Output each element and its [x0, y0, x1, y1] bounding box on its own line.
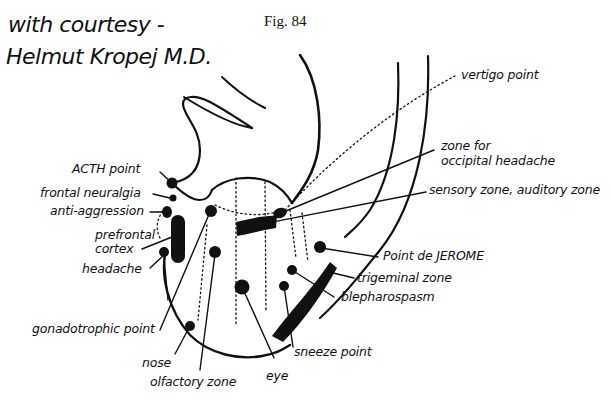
label-headache: headache	[82, 263, 142, 276]
jerome-dot	[314, 241, 326, 253]
antihelix-crus-stroke-2	[184, 97, 252, 128]
credit-line-1: with courtesy -	[8, 14, 164, 36]
helix-curve-inner	[345, 63, 398, 237]
lobe-outer-boundary	[164, 250, 290, 357]
blepharospasm-dot	[287, 265, 297, 275]
eye-dot	[235, 280, 250, 295]
label-nose: nose	[142, 357, 171, 370]
label-occipital-headache-1: zone for	[441, 140, 490, 153]
label-trigeminal-zone: trigeminal zone	[357, 272, 452, 285]
label-prefrontal-2: cortex	[95, 243, 133, 256]
prefrontal-cortex-zone	[171, 215, 185, 263]
leader-jerome	[321, 248, 378, 257]
anti-aggression-dot	[162, 206, 172, 218]
leader-eye	[243, 289, 274, 358]
label-sensory-auditory-zone: sensory zone, auditory zone	[429, 184, 600, 197]
label-occipital-headache-2: occipital headache	[441, 155, 555, 168]
label-sneeze-point: sneeze point	[294, 346, 372, 359]
label-gonadotrophic-point: gonadotrophic point	[32, 323, 155, 336]
leader-frontal-neuralgia	[153, 194, 170, 198]
lobe-top-arc	[212, 178, 292, 203]
label-prefrontal-1: prefrontal	[95, 229, 155, 242]
label-olfactory-zone: olfactory zone	[150, 376, 236, 389]
ear-acupuncture-diagram: with courtesy - Helmut Kropej M.D. Fig. …	[0, 0, 610, 399]
nose-dot	[185, 321, 195, 331]
frontal-neuralgia-dot	[170, 195, 177, 202]
label-anti-aggression: anti-aggression	[50, 205, 144, 218]
label-frontal-neuralgia: frontal neuralgia	[40, 187, 141, 200]
olfactory-dot	[209, 246, 221, 258]
label-blepharospasm: blepharospasm	[341, 291, 435, 304]
dotted-v-3	[198, 225, 207, 320]
credit-line-2: Helmut Kropej M.D.	[6, 46, 212, 68]
intertragic-notch	[172, 183, 212, 200]
label-eye: eye	[266, 370, 288, 383]
helix-outer-curve	[292, 55, 319, 203]
leader-headache	[150, 255, 164, 268]
dotted-v-2	[265, 182, 266, 312]
dotted-v-5	[302, 213, 308, 262]
sensory-auditory-zone-bar	[236, 216, 277, 236]
figure-number: Fig. 84	[264, 14, 307, 29]
tragus-outline	[172, 97, 252, 183]
label-point-de-jerome: Point de JEROME	[383, 250, 484, 263]
antihelix-crus-stroke	[222, 77, 265, 108]
headache-dot	[159, 247, 169, 257]
acth-point-dot	[167, 178, 178, 189]
sneeze-dot	[279, 281, 289, 291]
label-vertigo-point: vertigo point	[461, 69, 538, 82]
leader-occipital	[281, 150, 434, 213]
gonadotrophic-dot	[205, 205, 217, 217]
label-acth-point: ACTH point	[72, 163, 140, 176]
trigeminal-sneeze-zone-bar	[272, 262, 337, 342]
dotted-left-arc	[157, 212, 162, 238]
